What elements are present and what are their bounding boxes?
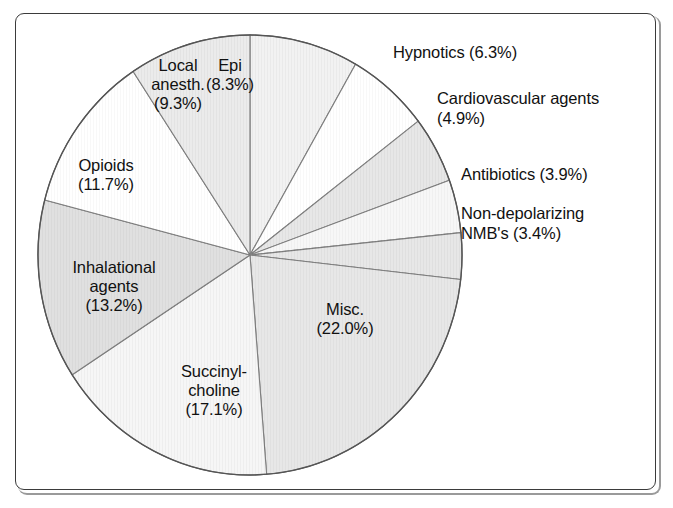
slice-label-hypnotics: Hypnotics (6.3%) [393,42,613,62]
slice-label-local-anesth: Local anesth. (9.3%) [126,56,230,113]
pie-slice-misc [250,255,461,474]
slice-label-inhalational: Inhalational agents (13.2%) [46,258,182,315]
pie-chart-figure: Epi (8.3%) Hypnotics (6.3%) Cardiovascul… [0,0,673,508]
slice-label-cardiovascular: Cardiovascular agents (4.9%) [437,88,667,128]
slice-label-nmb: Non-depolarizing NMB's (3.4%) [461,203,651,243]
slice-label-opioids: Opioids (11.7%) [48,156,164,194]
slice-label-antibiotics: Antibiotics (3.9%) [461,164,661,184]
slice-label-misc: Misc. (22.0%) [293,300,397,338]
pie-chart-canvas [0,0,673,508]
slice-label-succinylcholine: Succinyl- choline (17.1%) [152,362,276,419]
